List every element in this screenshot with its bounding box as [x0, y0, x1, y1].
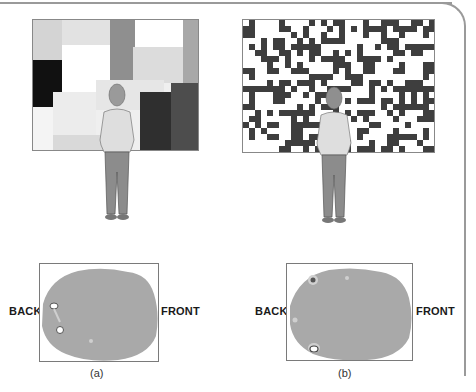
figure-frame-corner	[440, 2, 466, 28]
brain-slice	[40, 264, 159, 362]
block	[33, 20, 62, 60]
block	[183, 20, 199, 83]
block	[53, 92, 96, 135]
person-figure	[94, 82, 140, 224]
figure-frame-top	[0, 2, 452, 4]
block	[110, 20, 135, 80]
block	[133, 47, 183, 83]
front-label: FRONT	[161, 305, 200, 317]
block	[140, 92, 171, 151]
person-figure	[311, 85, 357, 227]
brain-slice	[287, 264, 413, 361]
front-label: FRONT	[416, 305, 455, 317]
back-label: BACK	[9, 305, 42, 317]
block	[171, 83, 199, 151]
block	[33, 107, 53, 151]
panel-caption: (b)	[338, 367, 351, 379]
back-label: BACK	[255, 305, 288, 317]
brain-activity-map	[39, 263, 159, 362]
panel-caption: (a)	[90, 367, 103, 379]
block	[62, 20, 110, 45]
block	[135, 20, 183, 47]
brain-activity-map	[286, 263, 413, 361]
figure-frame-right	[464, 26, 466, 376]
